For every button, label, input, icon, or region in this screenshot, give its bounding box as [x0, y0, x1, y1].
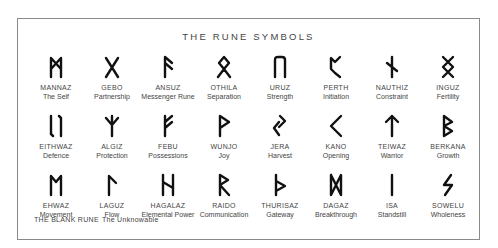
rune-meaning: Communication — [200, 210, 249, 219]
rune-meaning: Fertility — [437, 92, 460, 101]
rune-meaning: Joy — [219, 151, 230, 160]
rune-item: JERA Harvest — [252, 112, 308, 171]
ansuz-rune-icon — [157, 55, 179, 79]
rune-name: TEIWAZ — [378, 142, 406, 151]
nauthiz-rune-icon — [381, 55, 403, 79]
inguz-rune-icon — [437, 55, 459, 79]
rune-meaning: Constraint — [376, 92, 408, 101]
rune-meaning: Partnership — [94, 92, 130, 101]
rune-name: URUZ — [270, 83, 291, 92]
rune-name: JERA — [270, 142, 289, 151]
rune-name: EITHWAZ — [39, 142, 72, 151]
rune-item: MANNAZ The Self — [28, 53, 84, 112]
laguz-rune-icon — [101, 173, 123, 197]
blank-rune-note: THE BLANK RUNEThe Unknowable — [34, 216, 159, 223]
rune-name: NAUTHIZ — [376, 83, 408, 92]
rune-meaning: Possessions — [148, 151, 187, 160]
chart-title: THE RUNE SYMBOLS — [18, 31, 479, 42]
rune-name: HAGALAZ — [151, 201, 186, 210]
algiz-rune-icon — [101, 114, 123, 138]
raido-rune-icon — [213, 173, 235, 197]
rune-item: NAUTHIZ Constraint — [364, 53, 420, 112]
rune-item: THURISAZ Gateway — [252, 171, 308, 230]
mannaz-rune-icon — [45, 55, 67, 79]
rune-item: INGUZ Fertility — [420, 53, 476, 112]
uruz-rune-icon — [269, 55, 291, 79]
rune-meaning: Defence — [43, 151, 69, 160]
rune-name: OTHILA — [210, 83, 237, 92]
rune-meaning: Gateway — [266, 210, 294, 219]
rune-name: EHWAZ — [43, 201, 70, 210]
kano-rune-icon — [325, 114, 347, 138]
thurisaz-rune-icon — [269, 173, 291, 197]
rune-name: ALGIZ — [101, 142, 123, 151]
rune-item: ISA Standstill — [364, 171, 420, 230]
rune-item: GEBO Partnership — [84, 53, 140, 112]
rune-name: KANO — [325, 142, 346, 151]
rune-name: PERTH — [323, 83, 348, 92]
perth-rune-icon — [325, 55, 347, 79]
rune-item: RAIDO Communication — [196, 171, 252, 230]
rune-name: SOWELU — [432, 201, 464, 210]
rune-name: INGUZ — [436, 83, 459, 92]
febu-rune-icon — [157, 114, 179, 138]
rune-grid: MANNAZ The Self GEBO Partnership ANSUZ M… — [28, 53, 476, 230]
rune-item: WUNJO Joy — [196, 112, 252, 171]
rune-name: MANNAZ — [40, 83, 71, 92]
rune-item: ALGIZ Protection — [84, 112, 140, 171]
rune-name: ISA — [386, 201, 398, 210]
rune-chart-frame: THE RUNE SYMBOLS MANNAZ The Self GEBO Pa… — [17, 18, 480, 240]
teiwaz-rune-icon — [381, 114, 403, 138]
berkana-rune-icon — [437, 114, 459, 138]
rune-name: DAGAZ — [323, 201, 349, 210]
blank-rune-name: THE BLANK RUNE — [34, 216, 99, 223]
wunjo-rune-icon — [213, 114, 235, 138]
rune-meaning: Growth — [437, 151, 460, 160]
rune-item: TEIWAZ Warrior — [364, 112, 420, 171]
rune-meaning: The Self — [43, 92, 69, 101]
rune-name: RAIDO — [212, 201, 236, 210]
rune-name: FEBU — [158, 142, 178, 151]
rune-name: WUNJO — [210, 142, 237, 151]
rune-meaning: Warrior — [381, 151, 404, 160]
rune-meaning: Strength — [267, 92, 293, 101]
isa-rune-icon — [381, 173, 403, 197]
rune-name: ANSUZ — [155, 83, 180, 92]
rune-item: BERKANA Growth — [420, 112, 476, 171]
jera-rune-icon — [269, 114, 291, 138]
rune-meaning: Wholeness — [431, 210, 466, 219]
rune-meaning: Initiation — [323, 92, 349, 101]
sowelu-rune-icon — [437, 173, 459, 197]
rune-meaning: Harvest — [268, 151, 292, 160]
ehwaz-rune-icon — [45, 173, 67, 197]
rune-item: SOWELU Wholeness — [420, 171, 476, 230]
rune-meaning: Messenger Rune — [141, 92, 194, 101]
eithwaz-rune-icon — [45, 114, 67, 138]
rune-item: DAGAZ Breakthrough — [308, 171, 364, 230]
othila-rune-icon — [213, 55, 235, 79]
rune-meaning: Protection — [96, 151, 128, 160]
rune-meaning: Breakthrough — [315, 210, 357, 219]
rune-name: LAGUZ — [100, 201, 125, 210]
rune-meaning: Separation — [207, 92, 241, 101]
rune-meaning: Standstill — [378, 210, 406, 219]
rune-item: FEBU Possessions — [140, 112, 196, 171]
gebo-rune-icon — [101, 55, 123, 79]
rune-item: OTHILA Separation — [196, 53, 252, 112]
rune-meaning: Opening — [323, 151, 349, 160]
blank-rune-meaning: The Unknowable — [102, 216, 159, 223]
rune-name: BERKANA — [430, 142, 466, 151]
rune-item: ANSUZ Messenger Rune — [140, 53, 196, 112]
hagalaz-rune-icon — [157, 173, 179, 197]
rune-name: THURISAZ — [261, 201, 298, 210]
dagaz-rune-icon — [325, 173, 347, 197]
rune-item: PERTH Initiation — [308, 53, 364, 112]
rune-item: URUZ Strength — [252, 53, 308, 112]
rune-name: GEBO — [101, 83, 122, 92]
rune-item: KANO Opening — [308, 112, 364, 171]
rune-item: EITHWAZ Defence — [28, 112, 84, 171]
